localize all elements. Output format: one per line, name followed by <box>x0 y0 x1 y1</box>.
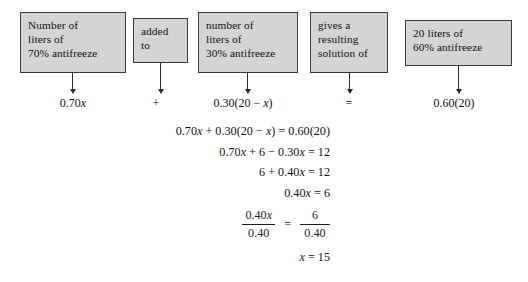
expression-070x: 0.70x <box>33 96 113 110</box>
down-arrow-icon <box>68 73 77 94</box>
phrase-box-line: liters of <box>206 32 291 46</box>
equation-line-4: 0.40x = 6 <box>0 183 330 204</box>
phrase-box-liters-70-percent: Number of liters of 70% antifreeze <box>20 12 126 73</box>
down-arrow-icon <box>454 66 463 94</box>
fraction-denominator: 0.40 <box>301 225 328 241</box>
phrase-box-gives-resulting-solution: gives a resulting solution of <box>310 12 388 73</box>
phrase-box-line: gives a <box>318 18 381 32</box>
expression-text: 0.30(20 − x) <box>213 96 272 110</box>
equation-line-final: x = 15 <box>0 247 330 268</box>
expression-equals: = <box>323 96 375 110</box>
expression-060-20: 0.60(20) <box>414 96 494 110</box>
expression-text: 0.70x <box>60 96 86 110</box>
expression-text: = <box>346 96 353 110</box>
down-arrow-icon <box>243 73 252 94</box>
equation-line-3: 6 + 0.40x = 12 <box>0 162 330 183</box>
solution-steps: 0.70x + 0.30(20 − x) = 0.60(20) 0.70x + … <box>0 121 330 268</box>
fraction-left: 0.40x 0.40 <box>242 208 275 241</box>
fraction-numerator: 6 <box>309 208 321 224</box>
phrase-box-20-liters-60-percent: 20 liters of 60% antifreeze <box>405 20 512 66</box>
phrase-box-line: 20 liters of <box>413 26 505 40</box>
phrase-box-line: liters of <box>28 32 119 46</box>
phrase-box-line: number of <box>206 18 291 32</box>
phrase-box-line: resulting <box>318 32 381 46</box>
fraction-numerator: 0.40x <box>242 208 275 224</box>
fraction-equals-sign: = <box>275 217 300 232</box>
phrase-box-line: added <box>141 24 181 38</box>
phrase-box-line: 70% antifreeze <box>28 46 119 60</box>
phrase-box-line: to <box>141 38 181 52</box>
down-arrow-icon <box>156 63 165 94</box>
equation-line-1: 0.70x + 0.30(20 − x) = 0.60(20) <box>0 121 330 142</box>
expression-text: + <box>153 96 160 110</box>
fraction-denominator: 0.40 <box>245 225 272 241</box>
phrase-box-line: 60% antifreeze <box>413 40 505 54</box>
phrase-box-line: 30% antifreeze <box>206 46 291 60</box>
down-arrow-icon <box>345 73 354 94</box>
equation-line-fraction: 0.40x 0.40 = 6 0.40 <box>0 203 330 245</box>
expression-030-20-minus-x: 0.30(20 − x) <box>193 96 293 110</box>
expression-plus: + <box>130 96 182 110</box>
phrase-box-line: solution of <box>318 46 381 60</box>
phrase-box-added-to: added to <box>133 18 188 63</box>
figure-canvas: Number of liters of 70% antifreeze added… <box>0 0 528 282</box>
equation-line-2: 0.70x + 6 − 0.30x = 12 <box>0 142 330 163</box>
phrase-box-line: Number of <box>28 18 119 32</box>
phrase-box-liters-30-percent: number of liters of 30% antifreeze <box>198 12 298 73</box>
fraction-right: 6 0.40 <box>300 208 330 241</box>
expression-text: 0.60(20) <box>434 96 475 110</box>
